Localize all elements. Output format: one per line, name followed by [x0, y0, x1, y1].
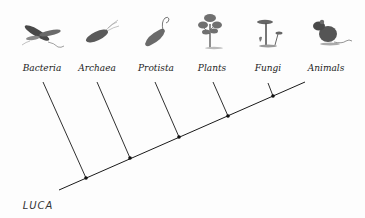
mushroom-icon: [257, 20, 283, 48]
taxon-label-animals: Animals: [307, 63, 345, 73]
node-plants: [226, 114, 230, 118]
taxon-label-bacteria: Bacteria: [22, 63, 62, 73]
branch-archaea: [97, 82, 130, 158]
root-label-luca: LUCA: [23, 200, 54, 211]
branch-protista: [155, 82, 179, 137]
node-protista: [177, 135, 181, 139]
archaea-icon: [84, 20, 119, 45]
node-archaea: [128, 156, 132, 160]
node-bacteria: [84, 176, 88, 180]
trunk-line: [59, 82, 305, 190]
taxon-label-fungi: Fungi: [254, 63, 282, 73]
node-fungi: [271, 94, 275, 98]
branch-fungi: [268, 83, 273, 96]
cladogram: Bacteria Archaea Protista Plants Fungi A…: [0, 0, 365, 218]
taxon-label-plants: Plants: [197, 63, 227, 73]
taxon-label-protista: Protista: [137, 63, 174, 73]
bacteria-icon: [22, 23, 64, 47]
mouse-icon: [313, 20, 352, 46]
taxon-label-archaea: Archaea: [77, 63, 116, 73]
tree-of-life-diagram: Bacteria Archaea Protista Plants Fungi A…: [0, 0, 365, 218]
branch-plants: [213, 82, 228, 116]
protista-icon: [145, 17, 169, 46]
plant-icon: [198, 14, 223, 49]
branch-bacteria: [43, 82, 86, 178]
